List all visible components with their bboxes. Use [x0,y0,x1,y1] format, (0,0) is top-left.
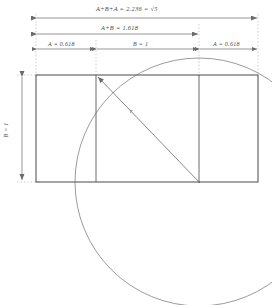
label-height: B = 1 [3,122,9,137]
label-a-plus-b: A+B = 1.618 [101,25,138,31]
label-total-width: A+B+A = 2.236 = √5 [96,6,158,12]
label-radius: r [130,108,133,115]
label-segment-a-right: A = 0.618 [213,41,240,47]
diagram-canvas: A+B+A = 2.236 = √5 A+B = 1.618 A = 0.618… [0,0,272,305]
extension-lines [17,14,258,182]
label-segment-b-middle: B = 1 [133,41,148,47]
radius-line [98,77,199,182]
circle-center-dot [198,181,200,183]
label-segment-a-left: A = 0.618 [48,41,75,47]
